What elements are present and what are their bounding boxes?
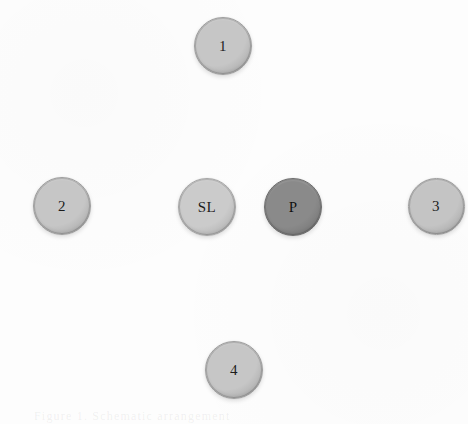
node-3-label: 3 (432, 199, 440, 214)
node-4[interactable]: 4 (205, 341, 263, 399)
node-sl[interactable]: SL (178, 178, 236, 236)
node-2[interactable]: 2 (33, 177, 91, 235)
node-1-label: 1 (219, 39, 227, 54)
caption-ghost-text: Figure 1. Schematic arrangement (34, 409, 364, 424)
node-3[interactable]: 3 (408, 178, 465, 235)
node-sl-label: SL (198, 200, 217, 215)
node-2-label: 2 (58, 199, 66, 214)
node-p[interactable]: P (264, 178, 322, 236)
node-p-label: P (289, 200, 298, 215)
diagram-canvas: 1 2 SL P 3 4 Figure 1. Schematic arrange… (0, 0, 468, 424)
node-1[interactable]: 1 (194, 17, 252, 75)
node-4-label: 4 (230, 363, 238, 378)
